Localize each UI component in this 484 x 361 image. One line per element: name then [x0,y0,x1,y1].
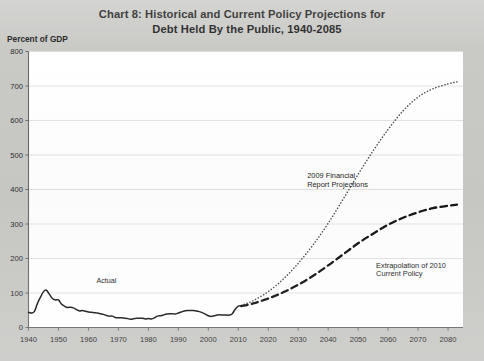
x-tick-label: 2050 [350,335,367,344]
x-tick-label: 2000 [200,335,217,344]
y-tick-label: 200 [10,254,23,263]
x-tick-label: 2030 [290,335,307,344]
x-axis-ticks: 1940195019601970198019902000201020202030… [20,328,456,344]
chart-title: Chart 8: Historical and Current Policy P… [0,7,484,36]
y-axis-ticks: 0100200300400500600700800 [10,47,28,332]
x-tick-label: 2020 [260,335,277,344]
chart-plot: 0100200300400500600700800 19401950196019… [0,0,484,361]
annotation-label: Report Projections [307,180,368,189]
annotation-label: Actual [96,276,116,285]
x-tick-label: 1960 [80,335,97,344]
x-tick-label: 1940 [20,335,37,344]
x-tick-label: 1970 [110,335,127,344]
chart-figure: Chart 8: Historical and Current Policy P… [0,0,484,361]
x-tick-label: 2070 [410,335,427,344]
x-tick-label: 1980 [140,335,157,344]
y-tick-label: 400 [10,185,23,194]
x-tick-label: 2040 [320,335,337,344]
x-tick-label: 2080 [440,335,457,344]
y-tick-label: 700 [10,82,23,91]
y-tick-label: 100 [10,289,23,298]
x-tick-label: 2060 [380,335,397,344]
x-tick-label: 1950 [50,335,67,344]
y-tick-label: 600 [10,116,23,125]
y-tick-label: 800 [10,47,23,56]
y-tick-label: 300 [10,220,23,229]
y-tick-label: 0 [19,323,23,332]
y-axis-label: Percent of GDP [7,34,68,44]
y-tick-label: 500 [10,151,23,160]
annotation-label: Current Policy [376,269,423,278]
x-tick-label: 1990 [170,335,187,344]
chart-title-line-1: Chart 8: Historical and Current Policy P… [0,7,484,22]
x-tick-label: 2010 [230,335,247,344]
chart-title-line-2: Debt Held By the Public, 1940-2085 [0,22,484,37]
